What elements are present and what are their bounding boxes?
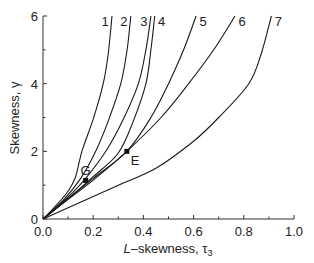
- x-tick-label: 0.2: [84, 224, 102, 239]
- marker-square: [83, 178, 88, 183]
- curve-line: [43, 16, 155, 219]
- plot-area: 1234567GE: [43, 14, 282, 219]
- chart: 1234567GE 0.00.20.40.60.81.0 0246 Skewne…: [0, 0, 314, 263]
- marker-square: [124, 149, 129, 154]
- x-tick-label: 0.6: [185, 224, 203, 239]
- marker-E: E: [124, 149, 140, 169]
- x-tick-label: 0.4: [134, 224, 152, 239]
- x-axis-title-italic: L: [124, 241, 131, 256]
- curve-label: 4: [158, 14, 165, 29]
- y-tick-label: 2: [31, 144, 38, 159]
- curve-2: 2: [43, 14, 131, 219]
- x-axis-title: L–skewness, τ3: [124, 241, 213, 258]
- x-tick-label: 1.0: [285, 224, 303, 239]
- x-axis-title-rest: –skewness, τ: [131, 241, 209, 256]
- marker-label: E: [131, 153, 140, 168]
- marker-label: G: [81, 163, 91, 178]
- y-axis-title: Skewness, γ: [7, 81, 22, 154]
- curve-line: [43, 16, 131, 219]
- curve-label: 7: [275, 14, 282, 29]
- curve-label: 3: [140, 14, 147, 29]
- y-tick-label: 4: [31, 77, 38, 92]
- curve-line: [43, 16, 235, 219]
- curve-label: 5: [199, 14, 206, 29]
- curve-label: 2: [120, 14, 127, 29]
- curve-line: [43, 16, 112, 219]
- y-tick-label: 6: [31, 9, 38, 24]
- curve-line: [43, 16, 196, 219]
- curve-label: 6: [238, 14, 245, 29]
- y-tick-label: 0: [31, 212, 38, 227]
- axes: 0.00.20.40.60.81.0 0246: [31, 9, 303, 239]
- curve-label: 1: [101, 14, 108, 29]
- x-tick-label: 0.8: [235, 224, 253, 239]
- x-axis-title-subscript: 3: [207, 248, 212, 258]
- y-ticks: 0246: [31, 9, 47, 227]
